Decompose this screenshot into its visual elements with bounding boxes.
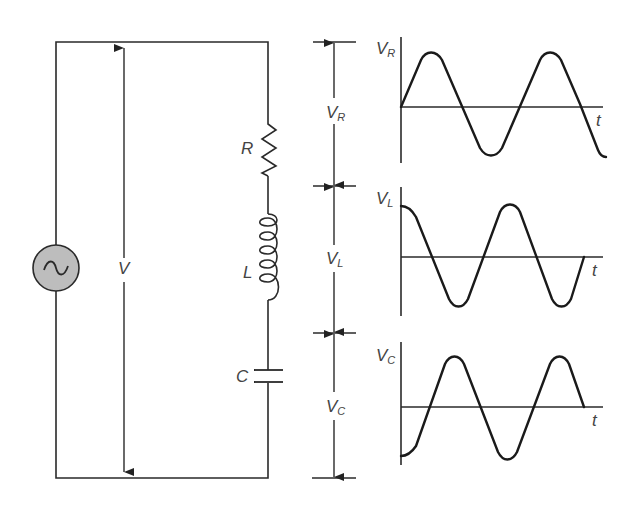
resistor-label: R (241, 140, 253, 157)
circuit-wires (56, 42, 268, 478)
graph-vl-ylabel: VL (376, 190, 393, 209)
total-voltage-label: V (118, 260, 129, 277)
ac-source-icon (33, 245, 79, 291)
dimension-label-vl: VL (326, 250, 343, 269)
capacitor-icon (254, 370, 283, 382)
inductor-icon (260, 214, 279, 300)
inductor-label: L (243, 264, 252, 281)
graph-vr (401, 37, 606, 163)
resistor-icon (262, 120, 276, 176)
dimension-label-vc: VC (326, 398, 345, 417)
graph-vr-ylabel: VR (376, 40, 395, 59)
graph-vl (401, 187, 603, 316)
graph-vc-xlabel: t (592, 412, 597, 429)
graph-vc-ylabel: VC (376, 347, 395, 366)
dimension-label-vr: VR (326, 104, 345, 123)
graph-vc (401, 342, 603, 465)
rlc-circuit-diagram (0, 0, 637, 515)
graph-vl-xlabel: t (592, 262, 597, 279)
capacitor-label: C (236, 368, 248, 385)
graph-vr-xlabel: t (596, 112, 601, 129)
